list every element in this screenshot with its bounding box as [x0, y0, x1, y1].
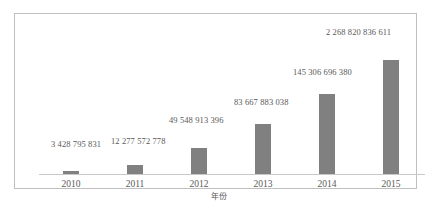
bar-2013[interactable]	[255, 124, 271, 174]
x-tick-label-2015: 2015	[359, 178, 423, 190]
bar-2015[interactable]	[383, 60, 399, 174]
bar-value-label-2010: 3 428 795 831	[51, 139, 101, 149]
bar-slot-2012	[167, 32, 231, 174]
category-axis-line	[39, 174, 425, 175]
bar-value-label-2012: 49 548 913 396	[169, 115, 224, 125]
x-axis-title: 年份	[211, 190, 227, 201]
bar-2011[interactable]	[127, 165, 143, 174]
chart-frame: 3 428 795 831 12 277 572 778 49 548 913 …	[14, 13, 417, 189]
bar-slot-2014	[295, 32, 359, 174]
bar-slot-2010	[39, 32, 103, 174]
bar-slot-2015	[359, 32, 423, 174]
bar-slot-2011	[103, 32, 167, 174]
x-tick-label-2013: 2013	[231, 178, 295, 190]
x-tick-label-2010: 2010	[39, 178, 103, 190]
bar-value-label-2015: 2 268 820 836 611	[326, 27, 391, 37]
bar-value-label-2014: 145 306 696 380	[293, 67, 352, 77]
plot-area	[39, 32, 424, 174]
x-tick-label-2011: 2011	[103, 178, 167, 190]
bar-value-label-2011: 12 277 572 778	[111, 136, 166, 146]
bar-2012[interactable]	[191, 148, 207, 174]
bar-value-label-2013: 83 667 883 038	[234, 97, 289, 107]
x-tick-label-2014: 2014	[295, 178, 359, 190]
bar-2014[interactable]	[319, 94, 335, 174]
x-tick-label-2012: 2012	[167, 178, 231, 190]
bar-chart-figure: 3 428 795 831 12 277 572 778 49 548 913 …	[0, 0, 429, 204]
